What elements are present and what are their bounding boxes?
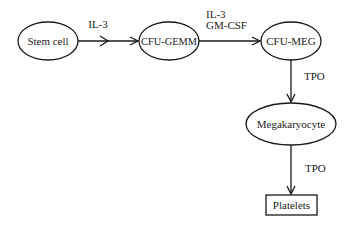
- cfu-meg-label: CFU-MEG: [266, 35, 316, 47]
- node-megakaryocyte: Megakaryocyte: [246, 103, 336, 145]
- node-platelets: Platelets: [266, 195, 317, 215]
- edge-stem-to-gemm: IL-3: [78, 18, 138, 46]
- edge-label-il3: IL-3: [88, 18, 108, 30]
- node-cfu-gemm: CFU-GEMM: [139, 22, 199, 60]
- platelets-label: Platelets: [273, 199, 310, 211]
- edge-gemm-to-meg: IL-3 GM-CSF: [199, 8, 260, 41]
- node-stem-cell: Stem cell: [18, 22, 78, 60]
- node-cfu-meg: CFU-MEG: [261, 22, 321, 60]
- edge-label-gm-csf: GM-CSF: [206, 19, 247, 31]
- edge-megakaryocyte-to-platelets: TPO: [291, 145, 326, 194]
- stem-cell-label: Stem cell: [27, 35, 68, 47]
- cfu-gemm-label: CFU-GEMM: [141, 35, 197, 47]
- edge-label-tpo-1: TPO: [304, 70, 325, 82]
- megakaryocyte-label: Megakaryocyte: [257, 118, 326, 130]
- edge-label-tpo-2: TPO: [305, 162, 326, 174]
- edge-meg-to-megakaryocyte: TPO: [291, 60, 325, 102]
- hematopoiesis-diagram: Stem cell IL-3 CFU-GEMM IL-3 GM-CSF CFU-…: [0, 0, 363, 226]
